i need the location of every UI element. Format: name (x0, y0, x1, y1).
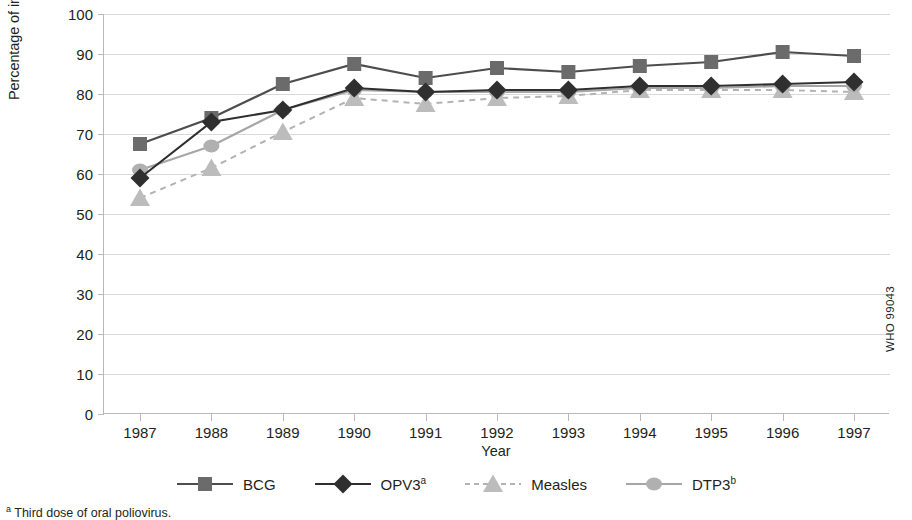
data-point-marker (133, 137, 147, 151)
y-axis-tick-label: 80 (76, 86, 93, 103)
y-axis-tick-label: 100 (68, 6, 93, 23)
legend-item-opv3[interactable]: OPV3a (314, 474, 427, 494)
legend-item-measles[interactable]: Measles (464, 474, 587, 494)
y-axis-tick (98, 414, 104, 415)
chart-legend: BCGOPV3aMeaslesDTP3b (0, 470, 912, 498)
x-axis-tick-label: 1990 (338, 424, 371, 441)
x-axis-tick-label: 1988 (195, 424, 228, 441)
data-point-marker (704, 55, 718, 69)
y-axis-tick-label: 0 (85, 406, 93, 423)
x-axis-tick (854, 414, 855, 421)
y-axis-tick-label: 20 (76, 326, 93, 343)
x-axis-tick-label: 1993 (552, 424, 585, 441)
data-point-marker (130, 189, 150, 207)
x-axis-tick-label: 1989 (266, 424, 299, 441)
y-axis-tick-label: 70 (76, 126, 93, 143)
data-point-marker (488, 81, 507, 100)
series-line (140, 90, 854, 198)
data-point-marker (201, 159, 221, 177)
x-axis-tick-label: 1995 (695, 424, 728, 441)
who-code-annotation: WHO 99043 (884, 286, 896, 352)
legend-label: Measles (531, 476, 587, 493)
series-layer (104, 14, 890, 414)
data-point-marker (561, 65, 575, 79)
x-axis-title: Year (103, 443, 889, 459)
y-axis-tick-label: 30 (76, 286, 93, 303)
x-axis-tick (426, 414, 427, 421)
x-axis-tick-label: 1997 (837, 424, 870, 441)
legend-glyph-circle-icon (625, 474, 683, 494)
data-point-marker (490, 61, 504, 75)
data-point-marker (646, 478, 662, 491)
data-point-marker (776, 45, 790, 59)
x-axis-tick (568, 414, 569, 421)
x-axis-tick (354, 414, 355, 421)
series-opv3 (131, 73, 864, 188)
x-axis-tick-label: 1992 (480, 424, 513, 441)
x-axis-tick (783, 414, 784, 421)
y-axis-title: Percentage of infants immunized (6, 0, 28, 100)
x-axis-tick-label: 1987 (123, 424, 156, 441)
x-axis-tick (283, 414, 284, 421)
y-axis-tick-label: 50 (76, 206, 93, 223)
x-axis-tick (711, 414, 712, 421)
footnotes: a Third dose of oral poliovirus. (6, 502, 171, 520)
legend-glyph-triangle-icon (464, 474, 522, 494)
plot-area: 0102030405060708090100 19871988198919901… (103, 14, 889, 414)
y-axis-tick-label: 90 (76, 46, 93, 63)
legend-item-bcg[interactable]: BCG (176, 474, 276, 494)
legend-label-superscript: a (421, 475, 427, 486)
data-point-marker (633, 59, 647, 73)
legend-label: DTP3b (692, 475, 736, 493)
data-point-marker (198, 477, 212, 491)
chart-figure: Percentage of infants immunized 01020304… (0, 0, 912, 520)
data-point-marker (273, 123, 293, 141)
legend-glyph-diamond-icon (314, 474, 372, 494)
x-axis-tick-label: 1996 (766, 424, 799, 441)
footnote-text: Third dose of oral poliovirus. (11, 506, 171, 520)
y-axis-tick-label: 10 (76, 366, 93, 383)
data-point-marker (276, 77, 290, 91)
footnote: a Third dose of oral poliovirus. (6, 502, 171, 520)
x-axis-tick (497, 414, 498, 421)
x-axis-tick (640, 414, 641, 421)
data-point-marker (273, 101, 292, 120)
y-axis-tick-label: 40 (76, 246, 93, 263)
data-point-marker (345, 79, 364, 98)
x-axis-tick (211, 414, 212, 421)
data-point-marker (203, 140, 219, 153)
x-axis-tick-label: 1994 (623, 424, 656, 441)
legend-item-dtp3[interactable]: DTP3b (625, 474, 736, 494)
data-point-marker (333, 475, 352, 494)
x-axis-tick-label: 1991 (409, 424, 442, 441)
data-point-marker (416, 83, 435, 102)
data-point-marker (347, 57, 361, 71)
y-axis-tick-label: 60 (76, 166, 93, 183)
data-point-marker (847, 49, 861, 63)
x-axis-tick (140, 414, 141, 421)
legend-label-superscript: b (730, 475, 736, 486)
legend-label: OPV3a (381, 475, 427, 493)
legend-glyph-square-icon (176, 474, 234, 494)
legend-label: BCG (243, 476, 276, 493)
